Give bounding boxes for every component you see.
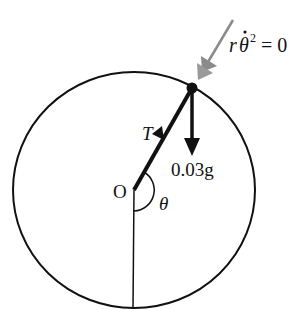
radial-label-theta: θ	[239, 34, 249, 56]
particle	[187, 83, 198, 94]
vertical-circle-diagram: O θ T 0.03g r θ 2 = 0	[0, 0, 308, 310]
radial-label-exponent: 2	[250, 31, 256, 45]
radial-label-rhs: = 0	[261, 34, 287, 56]
angle-arc	[134, 172, 154, 211]
tension-arrowhead-icon	[152, 126, 164, 140]
weight-label: 0.03g	[171, 159, 214, 180]
theta-dot-icon	[243, 30, 246, 33]
origin-label: O	[113, 181, 127, 202]
tension-label: T	[142, 123, 154, 144]
radial-label-r: r	[229, 34, 237, 56]
weight-arrowhead-icon	[184, 138, 200, 156]
vertical-reference-line	[133, 190, 134, 308]
angle-label: θ	[159, 193, 168, 214]
